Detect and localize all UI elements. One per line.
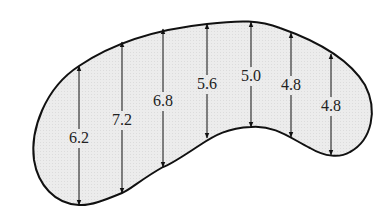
kidney-diagram: 6.27.26.85.65.04.84.8: [0, 0, 389, 211]
measurement-label: 4.8: [281, 76, 301, 93]
measurement-label: 5.0: [241, 67, 261, 84]
measurement-label: 7.2: [112, 111, 132, 128]
measurement-label: 5.6: [197, 75, 217, 92]
measurement-label: 6.8: [153, 92, 173, 109]
measurement-label: 4.8: [321, 97, 341, 114]
measurement-label: 6.2: [69, 129, 89, 146]
